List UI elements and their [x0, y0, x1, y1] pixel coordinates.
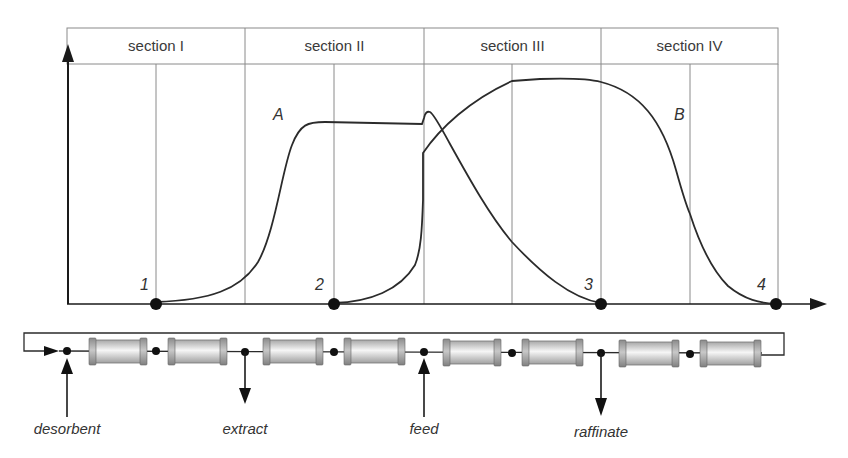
- desorbent-inlet-arrow: [61, 358, 73, 417]
- point-3-label: 3: [584, 276, 593, 294]
- point-1-marker: [150, 298, 162, 310]
- curve-b-label: B: [674, 106, 685, 124]
- curve-b: [334, 79, 776, 304]
- column-6: [522, 339, 583, 366]
- curve-a-label: A: [273, 106, 284, 124]
- point-3-marker: [595, 298, 607, 310]
- column-8: [700, 340, 761, 367]
- point-2-label: 2: [315, 276, 324, 294]
- column-2: [168, 338, 227, 365]
- axes: [62, 44, 827, 310]
- section-3-label: section III: [424, 28, 601, 64]
- smb-diagram: [0, 0, 848, 458]
- point-2-marker: [328, 298, 340, 310]
- section-2-label: section II: [245, 28, 424, 64]
- column-1: [89, 338, 147, 365]
- section-4-label: section IV: [601, 28, 778, 64]
- section-1-label: section I: [67, 28, 245, 64]
- raffinate-label: raffinate: [546, 423, 656, 440]
- grid-lines: [156, 64, 778, 304]
- feed-inlet-arrow: [418, 358, 430, 417]
- column-4: [344, 338, 405, 365]
- feed-label: feed: [369, 420, 479, 437]
- point-4-marker: [770, 298, 782, 310]
- desorbent-label: desorbent: [12, 420, 122, 437]
- point-4-label: 4: [757, 276, 766, 294]
- point-1-label: 1: [140, 276, 149, 294]
- curve-a: [156, 112, 601, 303]
- extract-outlet-arrow: [239, 352, 251, 404]
- column-3: [263, 338, 323, 365]
- raffinate-outlet-arrow: [595, 353, 607, 416]
- extract-label: extract: [190, 420, 300, 437]
- loop-arrow-icon: [44, 346, 59, 356]
- column-5: [443, 339, 501, 366]
- column-7: [619, 340, 679, 367]
- x-axis-arrow-icon: [810, 298, 827, 310]
